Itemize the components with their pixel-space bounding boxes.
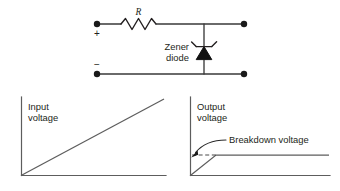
input-voltage-chart: Input voltage (22, 97, 167, 176)
terminal-node-icon-top-left (94, 21, 100, 27)
zener-bar-tail-right (212, 42, 217, 47)
input-chart-label-line2: voltage (28, 112, 58, 123)
zener-triangle (196, 47, 212, 60)
zener-label-line2: diode (166, 52, 189, 63)
zener-label-line1: Zener (165, 41, 190, 52)
figure-root: R + − Zener diode Input voltage (0, 0, 340, 191)
resistor-label: R (135, 7, 142, 17)
minus-sign-label: − (94, 59, 100, 70)
zener-circuit-figure: R + − Zener diode Input voltage (0, 0, 340, 191)
input-chart-label-line1: Input (28, 101, 49, 112)
circuit-schematic: R + − Zener diode (94, 7, 247, 77)
output-chart-label-line2: voltage (197, 112, 227, 123)
breakdown-voltage-annotation: Breakdown voltage (229, 134, 309, 145)
output-voltage-clamped-curve (191, 155, 329, 175)
breakdown-annotation-leader (196, 140, 227, 153)
terminal-node-icon-top-right (241, 21, 247, 27)
plus-sign-label: + (94, 28, 100, 39)
zener-bar-tail-left (192, 42, 197, 47)
resistor-icon (121, 19, 156, 30)
output-voltage-chart: Breakdown voltage Output voltage (191, 97, 331, 176)
terminal-node-icon-bottom-left (94, 71, 100, 77)
terminal-node-icon-bottom-right (241, 71, 247, 77)
output-chart-label-line1: Output (197, 101, 226, 112)
breakdown-annotation-arrow-icon (191, 150, 198, 157)
